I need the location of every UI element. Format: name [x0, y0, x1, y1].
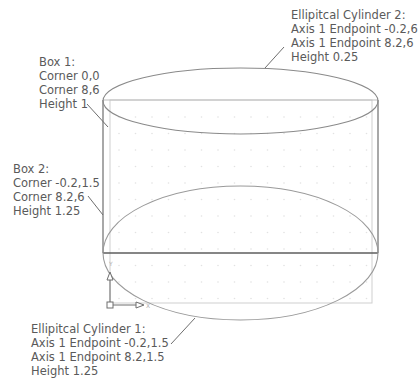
- annotation-line: Height 1.25: [13, 204, 100, 218]
- annotation-line: Axis 1 Endpoint -0.2,6: [291, 22, 418, 36]
- annotation-cylinder-2: Ellipitcal Cylinder 2: Axis 1 Endpoint -…: [291, 8, 418, 64]
- annotation-line: Height 0.25: [291, 50, 418, 64]
- elliptical-cylinder-2: [103, 68, 378, 134]
- box-1-outline: [110, 100, 372, 303]
- annotation-line: Height 1: [39, 97, 100, 111]
- annotation-line: Corner 0,0: [39, 69, 100, 83]
- leader-cyl-2: [265, 47, 284, 68]
- annotation-line: Corner -0.2,1.5: [13, 176, 100, 190]
- grid-dots: [118, 116, 367, 299]
- annotation-line: Axis 1 Endpoint 8.2,1.5: [31, 350, 169, 364]
- annotation-title: Box 1:: [39, 55, 100, 69]
- annotation-line: Axis 1 Endpoint -0.2,1.5: [31, 336, 169, 350]
- ucs-x-label: X: [146, 302, 150, 309]
- annotation-line: Axis 1 Endpoint 8.2,6: [291, 36, 418, 50]
- ucs-icon: Y X: [107, 260, 150, 309]
- annotation-line: Height 1.25: [31, 364, 169, 378]
- annotation-cylinder-1: Ellipitcal Cylinder 1: Axis 1 Endpoint -…: [31, 322, 169, 378]
- annotation-title: Box 2:: [13, 162, 100, 176]
- annotation-line: Corner 8.2,6: [13, 190, 100, 204]
- annotation-box-2: Box 2: Corner -0.2,1.5 Corner 8.2,6 Heig…: [13, 162, 100, 218]
- annotation-title: Ellipitcal Cylinder 1:: [31, 322, 169, 336]
- annotation-title: Ellipitcal Cylinder 2:: [291, 8, 418, 22]
- ucs-y-label: Y: [108, 260, 113, 267]
- cad-viewport[interactable]: Y X Box 1: Corner 0,0 Corner 8,6 Height …: [0, 0, 418, 392]
- annotation-line: Corner 8,6: [39, 83, 100, 97]
- annotation-box-1: Box 1: Corner 0,0 Corner 8,6 Height 1: [39, 55, 100, 111]
- leader-cyl-1: [171, 318, 195, 344]
